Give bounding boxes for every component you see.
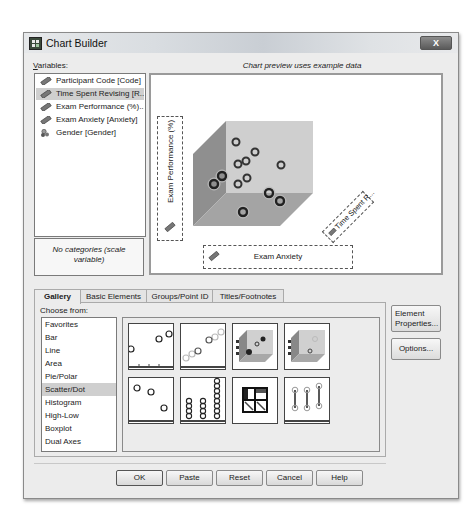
variable-item-time-spent-revising[interactable]: Time Spent Revising [R... [36, 88, 144, 100]
variable-label: Participant Code [Code] [56, 76, 141, 85]
drop-line-icon [285, 378, 329, 423]
cancel-button[interactable]: Cancel [266, 470, 313, 486]
variable-label: Exam Anxiety [Anxiety] [56, 115, 137, 124]
x-axis-dropzone[interactable]: Exam Anxiety [203, 245, 353, 269]
reset-button[interactable]: Reset [216, 470, 263, 486]
thumb-summary-point-plot[interactable] [128, 377, 174, 424]
3d-scatter-icon [233, 324, 277, 369]
3d-scatter-preview [193, 121, 317, 237]
options-button[interactable]: Options... [391, 338, 441, 360]
tab-basic-elements[interactable]: Basic Elements [79, 289, 148, 303]
chart-type-line[interactable]: Line [42, 344, 116, 357]
summary-point-icon [129, 378, 173, 423]
chart-preview-canvas[interactable]: Exam Performance (%) [149, 73, 443, 275]
chart-type-bar[interactable]: Bar [42, 331, 116, 344]
tab-gallery[interactable]: Gallery [34, 289, 81, 304]
chart-builder-dialog: Chart Builder X Variables: Chart preview… [23, 32, 459, 499]
chart-type-histogram[interactable]: Histogram [42, 396, 116, 409]
variable-item-participant-code[interactable]: Participant Code [Code] [36, 75, 144, 87]
thumb-grouped-scatter[interactable] [180, 323, 226, 370]
chart-type-area[interactable]: Area [42, 357, 116, 370]
grouped-3d-scatter-icon [285, 324, 329, 369]
variable-item-gender[interactable]: Gender [Gender] [36, 127, 144, 139]
variables-label: Variables: [33, 61, 68, 70]
variables-list[interactable]: Participant Code [Code] Time Spent Revis… [34, 73, 146, 237]
chart-type-high-low[interactable]: High-Low [42, 409, 116, 422]
variable-label: Exam Performance (%)... [56, 102, 144, 111]
z-axis-label: Time Spent R... [333, 188, 376, 231]
nominal-circles-icon [40, 129, 52, 137]
paste-button[interactable]: Paste [166, 470, 213, 486]
thumb-simple-dot-plot[interactable] [180, 377, 226, 424]
dot-plot-icon [181, 378, 225, 423]
chart-type-boxplot[interactable]: Boxplot [42, 422, 116, 435]
thumb-scatterplot-matrix[interactable] [232, 377, 278, 424]
chart-builder-icon [29, 37, 42, 50]
z-axis-dropzone[interactable]: Time Spent R... [322, 191, 374, 243]
scale-ruler-icon [40, 103, 52, 111]
categories-text-line1: No categories (scale [35, 245, 143, 255]
grouped-scatter-icon [181, 324, 225, 369]
preview-caption: Chart preview uses example data [152, 61, 452, 70]
y-axis-dropzone[interactable]: Exam Performance (%) [157, 116, 183, 241]
scale-ruler-icon [164, 222, 176, 232]
x-axis-label: Exam Anxiety [204, 252, 352, 261]
choose-from-label: Choose from: [40, 306, 88, 315]
element-properties-line1: Element [395, 309, 437, 319]
simple-scatter-icon [129, 324, 173, 369]
categories-text-line2: variable) [35, 255, 143, 265]
chart-type-dual-axes[interactable]: Dual Axes [42, 435, 116, 448]
title-bar[interactable]: Chart Builder X [24, 33, 458, 53]
thumb-simple-scatter[interactable] [128, 323, 174, 370]
tab-groups-point-id[interactable]: Groups/Point ID [146, 289, 214, 303]
chart-type-favorites[interactable]: Favorites [42, 318, 116, 331]
thumb-drop-line[interactable] [284, 377, 330, 424]
variable-label: Time Spent Revising [R... [56, 89, 144, 98]
ok-button[interactable]: OK [116, 470, 163, 486]
chart-thumbnails [122, 317, 380, 452]
tab-titles-footnotes[interactable]: Titles/Footnotes [212, 289, 284, 303]
help-button[interactable]: Help [316, 470, 363, 486]
chart-type-pie-polar[interactable]: Pie/Polar [42, 370, 116, 383]
window-title: Chart Builder [46, 37, 107, 49]
variable-label: Gender [Gender] [56, 128, 116, 137]
element-properties-line2: Properties... [395, 319, 437, 329]
footer-divider [34, 463, 386, 464]
variable-item-exam-performance[interactable]: Exam Performance (%)... [36, 101, 144, 113]
gallery-panel: Choose from: Favorites Bar Line Area Pie… [34, 302, 386, 457]
chart-type-list[interactable]: Favorites Bar Line Area Pie/Polar Scatte… [41, 317, 117, 452]
categories-info: No categories (scale variable) [34, 238, 144, 276]
scale-ruler-icon [40, 116, 52, 124]
scale-ruler-icon [40, 77, 52, 85]
thumb-simple-3d-scatter[interactable] [232, 323, 278, 370]
scale-ruler-icon [40, 90, 52, 98]
chart-type-scatter-dot[interactable]: Scatter/Dot [42, 383, 116, 396]
y-axis-label: Exam Performance (%) [166, 110, 175, 214]
thumb-grouped-3d-scatter[interactable] [284, 323, 330, 370]
variable-item-exam-anxiety[interactable]: Exam Anxiety [Anxiety] [36, 114, 144, 126]
scatter-matrix-icon [233, 378, 277, 423]
element-properties-button[interactable]: Element Properties... [391, 305, 441, 332]
close-button[interactable]: X [420, 36, 452, 50]
